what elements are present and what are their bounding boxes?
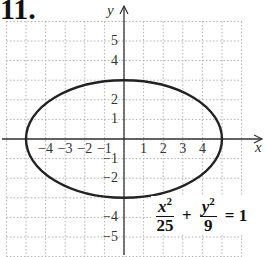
y-tick-label: −5	[103, 230, 118, 244]
exponent: 2	[167, 195, 173, 207]
ellipse-equation: x2 25 + y2 9 = 1	[151, 196, 254, 235]
exponent: 2	[209, 195, 215, 207]
equals-one: = 1	[225, 206, 247, 226]
y-tick-label: 5	[111, 34, 118, 48]
y-tick-label: 1	[111, 112, 118, 126]
y-tick-label: −1	[103, 152, 118, 166]
x-tick-label: −3	[58, 142, 73, 156]
x-axis-label: x	[255, 140, 262, 155]
numerator-var: x	[158, 197, 167, 216]
x-tick-label: 2	[160, 142, 167, 156]
y-tick-label: 2	[111, 93, 118, 107]
y-tick-label: −4	[103, 210, 118, 224]
x-tick-label: −2	[77, 142, 92, 156]
y-tick-label: 4	[111, 54, 118, 68]
fraction-y: y2 9	[200, 196, 217, 235]
y-axis-label: y	[107, 3, 114, 18]
problem-number: 11.	[0, 0, 36, 26]
x-tick-label: 1	[140, 142, 147, 156]
plus-sign: +	[182, 206, 192, 226]
denominator: 9	[204, 217, 213, 236]
x-tick-label: 3	[179, 142, 186, 156]
fraction-x: x2 25	[156, 196, 174, 235]
x-tick-label: −4	[38, 142, 53, 156]
denominator: 25	[157, 217, 174, 236]
y-tick-label: −2	[103, 171, 118, 185]
graph: 11. y x −4−3−2−11234 −5−4−2−11245 x2 25 …	[0, 0, 265, 257]
x-tick-label: 4	[199, 142, 206, 156]
